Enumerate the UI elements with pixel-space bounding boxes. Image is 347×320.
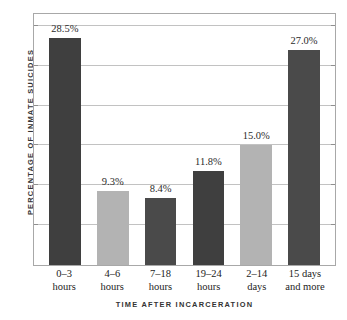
bars-group: 28.5% 9.3% 8.4% 11.8% 15.0% bbox=[34, 14, 335, 265]
bar-value-3: 11.8% bbox=[195, 156, 222, 167]
x-label-1-line-0: 4–6 bbox=[88, 268, 136, 281]
x-label-3: 19–24 hours bbox=[185, 268, 233, 298]
bar-value-1: 9.3% bbox=[102, 176, 124, 187]
x-label-2: 7–18 hours bbox=[136, 268, 184, 298]
x-label-3-line-1: hours bbox=[185, 281, 233, 294]
x-label-0-line-0: 0–3 bbox=[40, 268, 88, 281]
bar-0[interactable]: 28.5% bbox=[49, 38, 81, 265]
bar-value-2: 8.4% bbox=[150, 183, 172, 194]
bar-5[interactable]: 27.0% bbox=[288, 50, 320, 265]
bar-3[interactable]: 11.8% bbox=[193, 171, 225, 265]
x-axis-category-labels: 0–3 hours 4–6 hours 7–18 hours 19–24 hou… bbox=[33, 268, 336, 298]
x-label-5-line-0: 15 days bbox=[281, 268, 329, 281]
bar-slot-3: 11.8% bbox=[184, 14, 232, 265]
bar-slot-4: 15.0% bbox=[232, 14, 280, 265]
x-label-4-line-1: days bbox=[233, 281, 281, 294]
bar-1[interactable]: 9.3% bbox=[97, 191, 129, 265]
x-label-2-line-1: hours bbox=[136, 281, 184, 294]
bar-2[interactable]: 8.4% bbox=[145, 198, 177, 265]
x-label-1: 4–6 hours bbox=[88, 268, 136, 298]
x-label-4-line-0: 2–14 bbox=[233, 268, 281, 281]
x-label-0-line-1: hours bbox=[40, 281, 88, 294]
x-label-2-line-0: 7–18 bbox=[136, 268, 184, 281]
plot-area: 28.5% 9.3% 8.4% 11.8% 15.0% bbox=[33, 13, 336, 266]
bar-4[interactable]: 15.0% bbox=[240, 145, 272, 265]
x-axis-title: TIME AFTER INCARCERATION bbox=[33, 300, 336, 309]
bar-slot-2: 8.4% bbox=[137, 14, 185, 265]
bar-value-5: 27.0% bbox=[290, 35, 317, 46]
bar-value-0: 28.5% bbox=[51, 23, 78, 34]
x-label-3-line-0: 19–24 bbox=[185, 268, 233, 281]
bar-slot-0: 28.5% bbox=[41, 14, 89, 265]
x-label-5: 15 days and more bbox=[281, 268, 329, 298]
x-label-5-line-1: and more bbox=[281, 281, 329, 294]
x-label-4: 2–14 days bbox=[233, 268, 281, 298]
bar-slot-1: 9.3% bbox=[89, 14, 137, 265]
bar-slot-5: 27.0% bbox=[280, 14, 328, 265]
x-label-0: 0–3 hours bbox=[40, 268, 88, 298]
bar-value-4: 15.0% bbox=[243, 130, 270, 141]
bar-chart-figure: PERCENTAGE OF INMATE SUICIDES bbox=[0, 0, 347, 320]
x-label-1-line-1: hours bbox=[88, 281, 136, 294]
